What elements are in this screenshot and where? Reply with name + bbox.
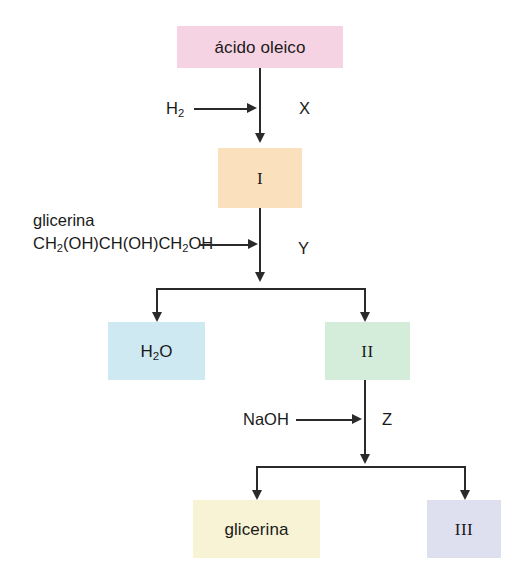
arrowhead-glicerina: [248, 239, 258, 249]
branch-leg-y-right: [364, 288, 366, 314]
arrowline-hydrogen: [194, 108, 249, 110]
arrowhead-I-to-branch-y: [255, 272, 265, 282]
reagent-glicerina-formula-label: CH2(OH)CH(OH)CH2OH: [33, 234, 213, 252]
box-product-III: III: [427, 500, 501, 558]
arrowline-glicerina: [200, 244, 250, 246]
reagent-glicerina-name-label: glicerina: [33, 211, 94, 229]
box-glicerina: glicerina: [193, 500, 320, 558]
arrowhead-branch-z-right: [460, 490, 470, 500]
box-product-III-label: III: [455, 521, 473, 538]
reagent-glicerina-name: glicerina: [33, 210, 94, 231]
arrowhead-II-to-branch-z: [360, 454, 370, 464]
step-label-y: Y: [298, 240, 309, 257]
box-acido-oleico: ácido oleico: [177, 26, 343, 68]
arrowhead-hydrogen: [247, 103, 257, 113]
connector-II-to-branch-z: [364, 380, 366, 456]
arrowline-sodium-hydroxide: [296, 419, 354, 421]
arrowhead-branch-y-left: [152, 312, 162, 322]
box-product-II: II: [325, 322, 410, 380]
reagent-sodium-hydroxide: NaOH: [243, 409, 289, 430]
arrowhead-branch-z-left: [252, 490, 262, 500]
branch-leg-z-right: [464, 466, 466, 492]
branch-bar-z: [256, 466, 465, 468]
connector-acido-to-I: [259, 68, 261, 135]
step-label-z: Z: [382, 411, 392, 428]
branch-leg-y-left: [156, 288, 158, 314]
reaction-flow-diagram: ácido oleico H2 X I glicerina CH2(OH)CH(…: [0, 0, 520, 571]
box-water-label: H2O: [140, 343, 172, 360]
box-glicerina-label: glicerina: [224, 521, 288, 538]
box-product-I-label: I: [257, 170, 263, 187]
box-acido-oleico-label: ácido oleico: [215, 39, 306, 56]
arrowhead-sodium-hydroxide: [352, 414, 362, 424]
box-product-II-label: II: [361, 343, 373, 360]
arrowhead-acido-to-I: [255, 133, 265, 143]
reagent-hydrogen-label: H2: [166, 99, 184, 117]
box-product-I: I: [218, 148, 302, 208]
reagent-sodium-hydroxide-label: NaOH: [243, 410, 289, 428]
reagent-hydrogen: H2: [166, 98, 184, 119]
reagent-glicerina-formula: CH2(OH)CH(OH)CH2OH: [33, 233, 213, 254]
connector-I-to-branch-y: [259, 208, 261, 274]
box-water: H2O: [108, 322, 205, 380]
arrowhead-branch-y-right: [360, 312, 370, 322]
branch-leg-z-left: [256, 466, 258, 492]
step-label-x: X: [299, 100, 310, 117]
branch-bar-y: [156, 288, 365, 290]
